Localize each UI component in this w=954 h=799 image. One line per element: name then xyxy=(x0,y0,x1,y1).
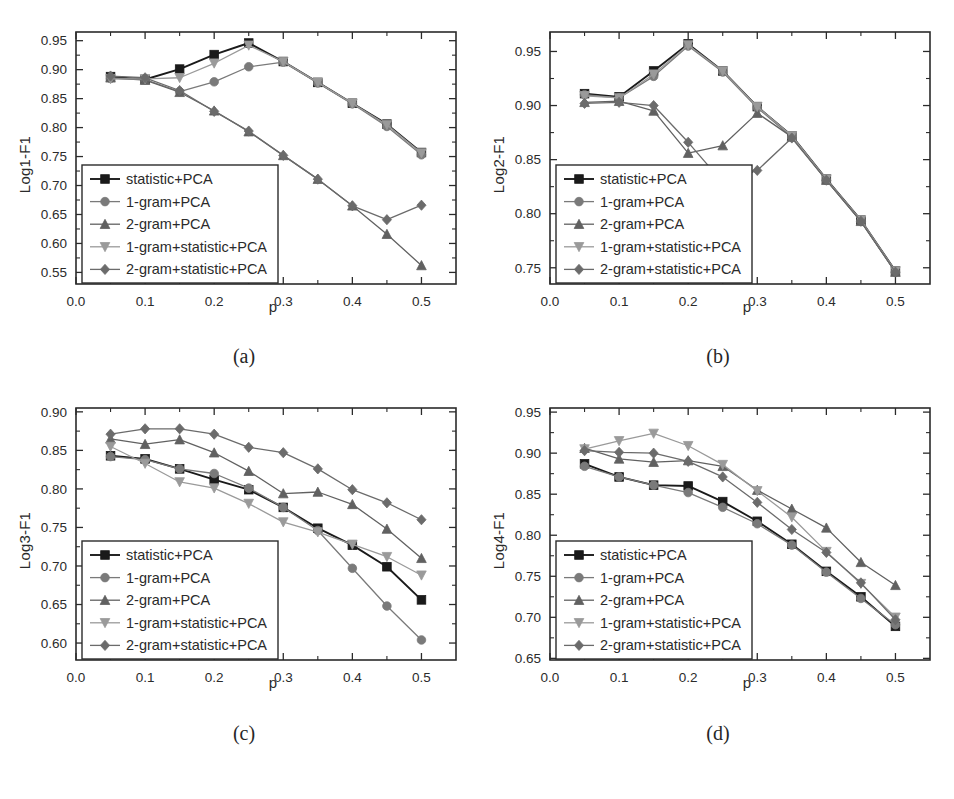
legend: statistic+PCA1-gram+PCA2-gram+PCA1-gram+… xyxy=(82,541,278,659)
plot-area-b: 0.750.800.850.900.950.00.10.20.30.40.5ps… xyxy=(508,14,944,348)
data-point-marker xyxy=(175,65,184,74)
data-point-marker xyxy=(382,498,391,508)
x-tick-label: 0.1 xyxy=(136,294,155,309)
legend-sample-marker xyxy=(101,573,110,582)
data-point-marker xyxy=(417,596,426,605)
data-point-marker xyxy=(383,562,392,571)
legend: statistic+PCA1-gram+PCA2-gram+PCA1-gram+… xyxy=(556,541,752,659)
data-point-marker xyxy=(209,59,219,68)
panel-caption-c: (c) xyxy=(18,722,470,745)
legend-label: 1-gram+PCA xyxy=(126,570,211,586)
x-tick-label: 0.4 xyxy=(817,294,836,309)
legend-label: 2-gram+statistic+PCA xyxy=(126,637,267,653)
data-point-marker xyxy=(209,484,219,493)
plot-area-a: 0.550.600.650.700.750.800.850.900.950.00… xyxy=(34,14,470,348)
data-point-marker xyxy=(649,448,658,458)
y-tick-label: 0.80 xyxy=(515,528,541,543)
legend: statistic+PCA1-gram+PCA2-gram+PCA1-gram+… xyxy=(82,165,278,283)
panel-caption-a: (a) xyxy=(18,345,470,368)
panel-b: Log2-F1 0.750.800.850.900.950.00.10.20.3… xyxy=(492,14,944,344)
x-tick-label: 0.4 xyxy=(343,294,362,309)
legend-label: 2-gram+PCA xyxy=(600,592,685,608)
y-axis-label-c: Log3-F1 xyxy=(16,390,34,690)
y-tick-label: 0.90 xyxy=(515,446,541,461)
y-tick-label: 0.80 xyxy=(41,482,67,497)
data-point-marker xyxy=(649,481,658,490)
data-point-marker xyxy=(278,518,288,527)
x-tick-label: 0.5 xyxy=(886,294,905,309)
x-tick-label: 0.5 xyxy=(886,670,905,685)
panel-caption-d: (d) xyxy=(492,722,944,745)
legend-sample-marker xyxy=(575,175,584,184)
data-point-marker xyxy=(822,568,831,577)
y-axis-label-b: Log2-F1 xyxy=(490,14,508,314)
y-tick-label: 0.95 xyxy=(515,44,541,59)
data-point-marker xyxy=(383,602,392,611)
legend-label: 1-gram+statistic+PCA xyxy=(600,615,741,631)
data-point-marker xyxy=(417,200,426,210)
data-point-marker xyxy=(382,524,392,533)
legend-label: statistic+PCA xyxy=(126,547,213,563)
panel-a: Log1-F1 0.550.600.650.700.750.800.850.90… xyxy=(18,14,470,344)
data-point-marker xyxy=(382,215,391,225)
legend-label: statistic+PCA xyxy=(600,171,687,187)
x-tick-label: 0.4 xyxy=(817,670,836,685)
data-point-marker xyxy=(279,503,288,512)
y-tick-label: 0.85 xyxy=(515,152,541,167)
data-point-marker xyxy=(348,485,357,495)
data-point-marker xyxy=(106,429,115,439)
data-point-marker xyxy=(210,78,219,87)
data-point-marker xyxy=(140,459,150,468)
data-point-marker xyxy=(348,499,358,508)
y-tick-label: 0.90 xyxy=(41,405,67,420)
y-tick-label: 0.95 xyxy=(515,405,541,420)
y-tick-label: 0.75 xyxy=(41,149,67,164)
series-1 xyxy=(106,39,426,157)
x-tick-label: 0.2 xyxy=(679,294,698,309)
x-tick-label: 0.1 xyxy=(610,670,629,685)
data-point-marker xyxy=(348,564,357,573)
legend-label: 2-gram+statistic+PCA xyxy=(600,261,741,277)
legend-label: 1-gram+statistic+PCA xyxy=(126,615,267,631)
legend-label: statistic+PCA xyxy=(600,547,687,563)
plot-area-c: 0.600.650.700.750.800.850.900.00.10.20.3… xyxy=(34,390,470,724)
panel-d: Log4-F1 0.650.700.750.800.850.900.950.00… xyxy=(492,390,944,720)
data-point-marker xyxy=(684,488,693,497)
y-axis-label-d: Log4-F1 xyxy=(490,390,508,690)
figure-four-panel-line-charts: Log1-F1 0.550.600.650.700.750.800.850.90… xyxy=(0,0,954,799)
legend-label: 1-gram+PCA xyxy=(600,194,685,210)
x-tick-label: 0.0 xyxy=(67,294,86,309)
y-tick-label: 0.75 xyxy=(515,569,541,584)
data-point-marker xyxy=(175,435,185,444)
x-tick-label: 0.5 xyxy=(412,670,431,685)
data-point-marker xyxy=(244,442,253,452)
data-point-marker xyxy=(822,523,832,532)
x-tick-label: 0.2 xyxy=(679,670,698,685)
legend-label: 2-gram+PCA xyxy=(126,216,211,232)
plot-area-d: 0.650.700.750.800.850.900.950.00.10.20.3… xyxy=(508,390,944,724)
legend-label: statistic+PCA xyxy=(126,171,213,187)
data-point-marker xyxy=(244,62,253,71)
legend-sample-marker xyxy=(101,551,110,560)
data-point-marker xyxy=(718,503,727,512)
data-point-marker xyxy=(787,504,797,513)
data-point-marker xyxy=(210,50,219,59)
legend-label: 2-gram+PCA xyxy=(126,592,211,608)
data-point-marker xyxy=(106,452,115,461)
y-tick-label: 0.85 xyxy=(41,91,67,106)
data-point-marker xyxy=(580,462,589,471)
x-tick-label: 0.2 xyxy=(205,670,224,685)
y-tick-label: 0.85 xyxy=(41,443,67,458)
y-tick-label: 0.60 xyxy=(41,236,67,251)
legend-label: 2-gram+statistic+PCA xyxy=(600,637,741,653)
y-tick-label: 0.65 xyxy=(515,651,541,666)
series-4 xyxy=(106,41,427,158)
data-point-marker xyxy=(244,499,254,508)
x-tick-label: 0.0 xyxy=(541,294,560,309)
x-tick-label: 0.1 xyxy=(610,294,629,309)
data-point-marker xyxy=(788,541,797,550)
data-point-marker xyxy=(106,442,116,451)
y-tick-label: 0.80 xyxy=(41,120,67,135)
series-line xyxy=(111,45,422,153)
data-point-marker xyxy=(210,429,219,439)
